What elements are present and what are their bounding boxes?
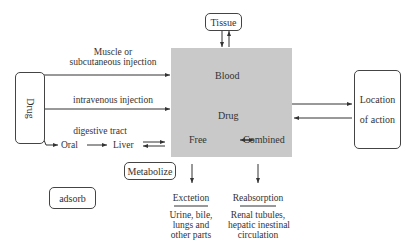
adsorb-node: adsorb bbox=[49, 187, 96, 209]
location-node: Location of action bbox=[354, 70, 401, 149]
muscle-route-label: Muscle or subcutaneous injection bbox=[60, 47, 166, 67]
excretion-detail: Urine, bile, lungs and other parts bbox=[166, 210, 216, 240]
reabsorption-detail: Renal tubules, hepatic inestinal circula… bbox=[228, 210, 288, 240]
liver-label: Liver bbox=[113, 140, 134, 150]
location-line-2: of action bbox=[360, 110, 395, 130]
reabsorption-title: Reabsorption bbox=[230, 193, 286, 203]
drug-label: Drug bbox=[218, 111, 239, 121]
blood-label: Blood bbox=[215, 71, 239, 81]
excretion-title: Exctetion bbox=[168, 193, 214, 203]
combined-label: Combined bbox=[243, 135, 285, 145]
metabolize-node: Metabolize bbox=[124, 162, 176, 180]
drug-source-node: Drug bbox=[15, 72, 45, 144]
tissue-node: Tissue bbox=[205, 13, 242, 31]
drug-source-label: Drug bbox=[25, 98, 36, 119]
location-line-1: Location bbox=[360, 90, 396, 110]
iv-route-label: intravenous injection bbox=[60, 95, 166, 105]
digestive-tract-label: digestive tract bbox=[60, 126, 140, 136]
free-label: Free bbox=[189, 135, 207, 145]
oral-label: Oral bbox=[61, 140, 78, 150]
